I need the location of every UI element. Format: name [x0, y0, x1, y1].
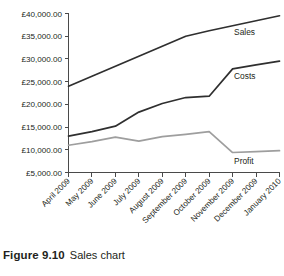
- y-tick-label: £20,000.00: [21, 100, 62, 109]
- y-axis: £5,000.00£10,000.00£15,000.00£20,000.00£…: [21, 10, 68, 178]
- caption-number: Figure 9.10: [3, 249, 65, 261]
- series-labels: SalesCostsProfit: [234, 27, 255, 166]
- caption-text: Sales chart: [70, 249, 125, 261]
- figure-root: £5,000.00£10,000.00£15,000.00£20,000.00£…: [0, 0, 284, 276]
- y-tick-label: £35,000.00: [21, 32, 62, 41]
- y-tick-label: £30,000.00: [21, 55, 62, 64]
- series-label-sales: Sales: [234, 27, 255, 37]
- figure-caption: Figure 9.10Sales chart: [3, 248, 281, 262]
- sales-chart: £5,000.00£10,000.00£15,000.00£20,000.00£…: [0, 0, 284, 240]
- y-tick-label: £5,000.00: [26, 169, 63, 178]
- series-label-costs: Costs: [234, 71, 255, 81]
- y-tick-label: £40,000.00: [21, 10, 62, 19]
- series-label-profit: Profit: [234, 156, 254, 166]
- y-tick-label: £15,000.00: [21, 123, 62, 132]
- chart-canvas: £5,000.00£10,000.00£15,000.00£20,000.00£…: [0, 0, 284, 240]
- series-line-profit: [69, 132, 280, 153]
- y-tick-label: £25,000.00: [21, 78, 62, 87]
- y-tick-label: £10,000.00: [21, 146, 62, 155]
- x-axis: April 2009May 2009June 2009July 2009Augu…: [40, 173, 283, 226]
